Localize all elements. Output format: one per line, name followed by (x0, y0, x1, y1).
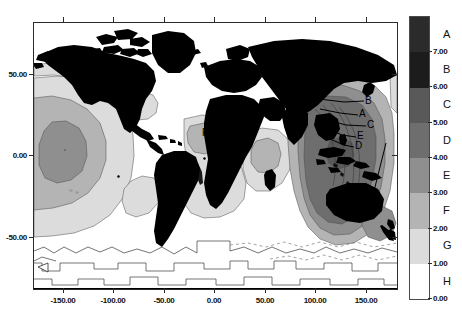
map-axes: B A C E D F G (33, 22, 398, 290)
x-tick-mark-top (63, 17, 64, 22)
legend-letter-D: D (443, 134, 451, 146)
colorbar-tick-label: 3.00 (433, 188, 447, 197)
colorbar-tick-label: 7.00 (433, 47, 447, 56)
colorbar-tick-mark (428, 228, 432, 229)
map-contour-svg (34, 23, 397, 289)
colorbar-tick-mark (428, 51, 432, 52)
y-tick-mark (29, 155, 34, 156)
colorbar-tick-mark (428, 192, 432, 193)
figure-canvas: B A C E D F G -150.00 -100.00 -50.00 0.0… (0, 0, 462, 319)
colorbar-tick-mark (428, 263, 432, 264)
contour-band-G-dateline (390, 75, 397, 113)
colorbar-band-F (410, 193, 429, 228)
land-antarctica-edge (34, 288, 397, 289)
x-tick-label: -100.00 (100, 296, 125, 305)
x-tick-label: 150.00 (355, 296, 378, 305)
figure-title (95, 0, 215, 7)
y-tick-mark-right (392, 155, 397, 156)
x-tick-mark-top (113, 17, 114, 22)
colorbar-tick-mark (428, 157, 432, 158)
x-tick-mark-top (265, 17, 266, 22)
x-tick-mark (214, 288, 215, 293)
colorbar-band-A (410, 17, 429, 52)
legend-letter-C: C (443, 98, 451, 110)
colorbar-band-H (410, 264, 429, 299)
x-tick-mark (113, 288, 114, 293)
colorbar-tick-mark (428, 298, 432, 299)
colorbar-tick-label: 5.00 (433, 118, 447, 127)
legend-letter-F: F (443, 204, 450, 216)
colorbar-band-E (410, 158, 429, 193)
colorbar-tick-mark (428, 122, 432, 123)
colorbar-tick-label: 4.00 (433, 153, 447, 162)
y-tick-mark (29, 74, 34, 75)
annotation-label-F: F (202, 128, 208, 138)
x-tick-mark-top (214, 17, 215, 22)
contour-core-speck (64, 149, 66, 151)
y-tick-mark-right (392, 237, 397, 238)
legend-letter-B: B (443, 63, 450, 75)
x-tick-label: 50.00 (256, 296, 275, 305)
x-tick-mark (366, 288, 367, 293)
y-tick-label: 0.00 (0, 151, 27, 160)
legend-letter-E: E (443, 169, 450, 181)
annotation-label-G: G (220, 156, 228, 166)
annotation-label-A: A (359, 109, 366, 119)
legend-letter-G: G (443, 239, 452, 251)
x-tick-label: -50.00 (154, 296, 175, 305)
x-tick-mark-top (366, 17, 367, 22)
legend-letter-A: A (443, 28, 450, 40)
y-tick-mark (29, 237, 34, 238)
colorbar-band-D (410, 123, 429, 158)
x-tick-mark-top (315, 17, 316, 22)
x-tick-mark (164, 288, 165, 293)
colorbar-band-G (410, 229, 429, 264)
annotation-label-C: C (367, 120, 374, 130)
x-tick-mark (265, 288, 266, 293)
colorbar-band-B (410, 52, 429, 87)
colorbar-tick-label: 2.00 (433, 224, 447, 233)
y-tick-label: -50.00 (0, 233, 27, 242)
x-tick-mark (63, 288, 64, 293)
colorbar-tick-label: 0.00 (433, 294, 447, 303)
x-tick-mark-top (164, 17, 165, 22)
annotation-label-D: D (355, 141, 362, 151)
x-tick-label: 100.00 (304, 296, 327, 305)
y-tick-label: 50.00 (0, 70, 27, 79)
x-tick-label: -150.00 (50, 296, 75, 305)
colorbar-tick-label: 1.00 (433, 259, 447, 268)
y-tick-mark-right (392, 74, 397, 75)
legend-letter-H: H (443, 275, 451, 287)
colorbar (409, 16, 430, 300)
annotation-label-B: B (365, 96, 372, 106)
colorbar-tick-label: 6.00 (433, 82, 447, 91)
colorbar-band-C (410, 88, 429, 123)
x-tick-mark (315, 288, 316, 293)
x-tick-label: 0.00 (207, 296, 221, 305)
map-plot-area: B A C E D F G (34, 23, 397, 289)
colorbar-tick-mark (428, 86, 432, 87)
